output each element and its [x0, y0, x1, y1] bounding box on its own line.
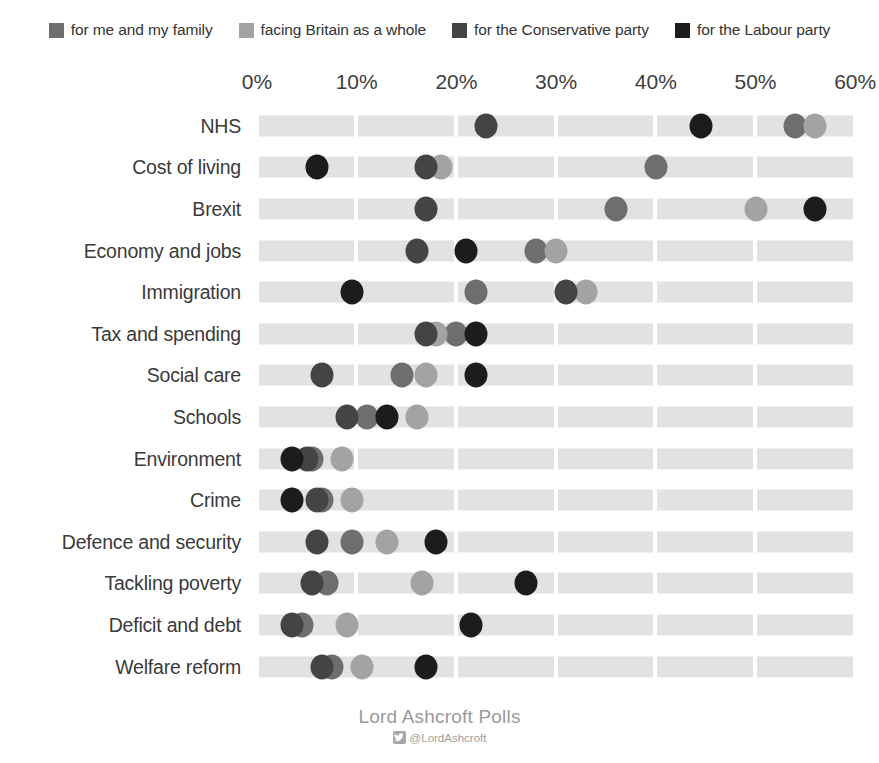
- chart-row: Economy and jobs: [0, 230, 879, 272]
- data-point-conservative: [475, 113, 498, 138]
- band-segment: [458, 656, 554, 677]
- band-segment: [458, 157, 554, 178]
- twitter-icon: [393, 731, 406, 744]
- category-label-nhs: NHS: [200, 114, 241, 137]
- row-background-band: [245, 531, 870, 552]
- band-segment: [458, 531, 554, 552]
- data-point-conservative: [305, 488, 328, 513]
- data-point-labour: [455, 238, 478, 263]
- data-point-britain: [804, 113, 827, 138]
- band-segment: [358, 448, 454, 469]
- band-segment: [558, 490, 654, 511]
- legend-swatch-me-family: [49, 23, 64, 38]
- legend-swatch-conservative: [452, 23, 467, 38]
- band-segment: [558, 406, 654, 427]
- band-segment: [757, 365, 853, 386]
- band-segment: [558, 323, 654, 344]
- category-label-tax-and-spending: Tax and spending: [91, 322, 241, 345]
- chart-row: Environment: [0, 438, 879, 480]
- band-segment: [657, 573, 753, 594]
- data-point-labour: [804, 196, 827, 221]
- legend-item-britain: facing Britain as a whole: [239, 21, 427, 39]
- band-segment: [259, 240, 355, 261]
- footer-twitter-handle: @LordAshcroft: [410, 732, 487, 744]
- band-segment: [558, 448, 654, 469]
- data-point-conservative: [415, 155, 438, 180]
- band-segment: [657, 198, 753, 219]
- data-point-britain: [415, 363, 438, 388]
- data-point-britain: [744, 196, 767, 221]
- chart-row: Social care: [0, 355, 879, 397]
- band-segment: [757, 448, 853, 469]
- data-point-conservative: [280, 612, 303, 637]
- data-point-me_family: [604, 196, 627, 221]
- category-label-crime: Crime: [190, 489, 241, 512]
- legend-label-labour: for the Labour party: [697, 21, 830, 39]
- data-point-britain: [375, 529, 398, 554]
- data-point-labour: [280, 446, 303, 471]
- legend-label-conservative: for the Conservative party: [474, 21, 649, 39]
- chart-row: Immigration: [0, 271, 879, 313]
- band-segment: [259, 365, 355, 386]
- data-point-labour: [340, 280, 363, 305]
- data-point-labour: [415, 654, 438, 679]
- x-axis-tick-40: 40%: [635, 70, 677, 94]
- data-point-conservative: [300, 571, 323, 596]
- x-axis-tick-labels: 0%10%20%30%40%50%60%: [0, 70, 879, 96]
- band-segment: [757, 323, 853, 344]
- category-label-brexit: Brexit: [192, 197, 241, 220]
- data-point-labour: [305, 155, 328, 180]
- data-point-labour: [375, 404, 398, 429]
- band-segment: [558, 240, 654, 261]
- chart-row: Deficit and debt: [0, 604, 879, 646]
- data-point-britain: [340, 488, 363, 513]
- legend-swatch-britain: [239, 23, 254, 38]
- x-axis-tick-50: 50%: [734, 70, 776, 94]
- band-segment: [358, 115, 454, 136]
- band-segment: [757, 573, 853, 594]
- band-segment: [558, 531, 654, 552]
- data-point-labour: [460, 612, 483, 637]
- band-segment: [657, 656, 753, 677]
- band-segment: [757, 240, 853, 261]
- data-point-britain: [405, 404, 428, 429]
- chart-legend: for me and my family facing Britain as a…: [0, 14, 879, 46]
- footer-source-title: Lord Ashcroft Polls: [0, 706, 879, 728]
- chart-plot-area: NHSCost of livingBrexitEconomy and jobsI…: [0, 105, 879, 690]
- band-segment: [458, 448, 554, 469]
- chart-row: Tax and spending: [0, 313, 879, 355]
- chart-row: Tackling poverty: [0, 563, 879, 605]
- legend-label-me-family: for me and my family: [71, 21, 213, 39]
- band-segment: [657, 614, 753, 635]
- data-point-conservative: [405, 238, 428, 263]
- category-label-economy-and-jobs: Economy and jobs: [84, 239, 241, 262]
- data-point-conservative: [310, 654, 333, 679]
- band-segment: [458, 115, 554, 136]
- band-segment: [259, 198, 355, 219]
- footer-handle-row: @LordAshcroft: [0, 731, 879, 744]
- data-point-me_family: [465, 280, 488, 305]
- band-segment: [657, 157, 753, 178]
- band-segment: [558, 365, 654, 386]
- category-label-schools: Schools: [173, 405, 241, 428]
- band-segment: [259, 115, 355, 136]
- chart-footer: Lord Ashcroft Polls @LordAshcroft: [0, 706, 879, 744]
- row-background-band: [245, 198, 870, 219]
- chart-row: Defence and security: [0, 521, 879, 563]
- chart-row: Schools: [0, 396, 879, 438]
- data-point-labour: [465, 363, 488, 388]
- chart-row: Crime: [0, 479, 879, 521]
- chart-row: Welfare reform: [0, 646, 879, 688]
- band-segment: [458, 490, 554, 511]
- band-segment: [458, 406, 554, 427]
- band-segment: [458, 198, 554, 219]
- data-point-britain: [575, 280, 598, 305]
- band-segment: [358, 198, 454, 219]
- band-segment: [458, 573, 554, 594]
- data-point-britain: [545, 238, 568, 263]
- data-point-conservative: [305, 529, 328, 554]
- band-segment: [558, 656, 654, 677]
- band-segment: [558, 115, 654, 136]
- data-point-conservative: [335, 404, 358, 429]
- band-segment: [259, 323, 355, 344]
